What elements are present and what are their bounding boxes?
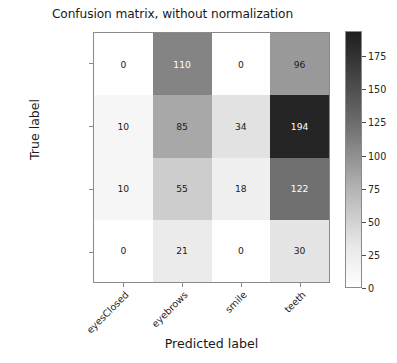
heatmap-cell: 85 [153, 95, 212, 157]
colorbar-tick-label: 25 [368, 249, 380, 260]
heatmap-cell-value: 10 [118, 183, 130, 194]
heatmap-cell: 55 [153, 158, 212, 220]
heatmap-cell-value: 110 [173, 59, 191, 70]
heatmap-cell: 30 [270, 220, 329, 282]
heatmap-cell: 10 [94, 95, 153, 157]
x-axis-tick-mark [123, 283, 124, 287]
colorbar-tick-mark [362, 56, 366, 57]
colorbar-tick-label: 125 [368, 117, 386, 128]
colorbar-tick-mark [362, 89, 366, 90]
colorbar-tick-label: 75 [368, 183, 380, 194]
colorbar-tick-mark [362, 122, 366, 123]
heatmap-cell-value: 10 [118, 121, 130, 132]
heatmap-grid: 0110096108534194105518122021030 [94, 33, 329, 282]
x-axis-tick-mark [241, 283, 242, 287]
x-axis-tick-label: eyesClosed [0, 289, 130, 363]
colorbar-gradient [346, 32, 361, 287]
heatmap-cell: 0 [94, 220, 153, 282]
heatmap-cell-value: 30 [294, 245, 306, 256]
heatmap-cell: 0 [212, 33, 271, 95]
heatmap-cell: 96 [270, 33, 329, 95]
colorbar-tick-mark [362, 189, 366, 190]
heatmap-cell-value: 122 [291, 183, 309, 194]
heatmap-cell: 10 [94, 158, 153, 220]
heatmap-cell-value: 0 [238, 245, 244, 256]
heatmap-cell-value: 96 [294, 59, 306, 70]
heatmap-plot-area: 0110096108534194105518122021030 [93, 32, 330, 283]
y-axis-label: True label [27, 30, 42, 230]
colorbar-tick-mark [362, 255, 366, 256]
heatmap-cell-value: 194 [291, 121, 309, 132]
heatmap-cell-value: 34 [235, 121, 247, 132]
colorbar-tick-label: 100 [368, 150, 386, 161]
colorbar-tick-label: 175 [368, 51, 386, 62]
colorbar-tick-mark [362, 156, 366, 157]
heatmap-cell: 0 [212, 220, 271, 282]
heatmap-cell: 34 [212, 95, 271, 157]
heatmap-cell-value: 55 [176, 183, 188, 194]
heatmap-cell-value: 0 [238, 59, 244, 70]
x-axis-tick-mark [300, 283, 301, 287]
heatmap-cell-value: 0 [120, 59, 126, 70]
heatmap-cell-value: 85 [176, 121, 188, 132]
colorbar-tick-mark [362, 288, 366, 289]
heatmap-cell: 21 [153, 220, 212, 282]
chart-title: Confusion matrix, without normalization [0, 7, 345, 21]
heatmap-cell: 194 [270, 95, 329, 157]
heatmap-cell: 110 [153, 33, 212, 95]
colorbar-tick-label: 150 [368, 84, 386, 95]
heatmap-cell-value: 18 [235, 183, 247, 194]
colorbar [345, 31, 362, 288]
heatmap-cell: 0 [94, 33, 153, 95]
x-axis-tick-mark [182, 283, 183, 287]
heatmap-cell: 18 [212, 158, 271, 220]
heatmap-cell-value: 0 [120, 245, 126, 256]
x-axis-label: Predicted label [93, 336, 330, 351]
heatmap-cell-value: 21 [176, 245, 188, 256]
confusion-matrix-figure: Confusion matrix, without normalization … [0, 0, 397, 363]
colorbar-tick-label: 0 [368, 283, 374, 294]
colorbar-tick-mark [362, 222, 366, 223]
heatmap-cell: 122 [270, 158, 329, 220]
colorbar-tick-label: 50 [368, 216, 380, 227]
